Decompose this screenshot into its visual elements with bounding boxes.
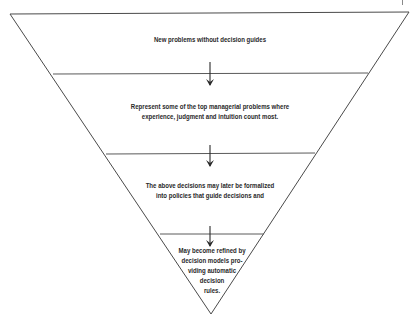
level-3-line-1: The above decisions may later be formali…: [128, 181, 292, 191]
level-2-line-1: Represent some of the top managerial pro…: [112, 102, 309, 112]
level-1-text: New problems without decision guides: [128, 35, 292, 45]
level-2-text: Represent some of the top managerial pro…: [112, 102, 309, 122]
level-4-line-3: viding automatic: [163, 266, 261, 276]
level-4-text: May become refined by decision models pr…: [163, 246, 261, 296]
arrow-down-icon: [206, 226, 214, 247]
level-3-text: The above decisions may later be formali…: [128, 181, 292, 201]
arrow-down-icon: [206, 145, 214, 167]
level-4-line-1: May become refined by: [163, 246, 261, 256]
level-4-line-5: rules.: [163, 286, 261, 296]
level-3-line-2: into policies that guide decisions and: [128, 191, 292, 201]
level-1-line-1: New problems without decision guides: [128, 35, 292, 45]
level-4-line-4: decision: [163, 276, 261, 286]
level-2-line-2: experience, judgment and intuition count…: [112, 112, 309, 122]
level-4-line-2: decision models pro-: [163, 256, 261, 266]
